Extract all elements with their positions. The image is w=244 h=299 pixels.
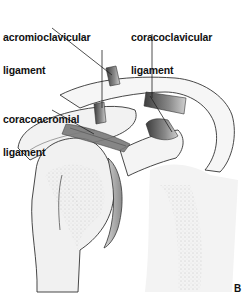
label-line-1: coracoclavicular <box>131 32 212 43</box>
shoulder-ligament-diagram: acromioclavicular ligament coracoclavicu… <box>0 0 244 299</box>
label-line-2: ligament <box>3 65 91 76</box>
panel-letter: B <box>234 283 241 294</box>
label-line-2: ligament <box>131 65 212 76</box>
label-acromioclavicular-ligament: acromioclavicular ligament <box>3 10 91 98</box>
label-line-2: ligament <box>3 147 79 158</box>
label-coracoclavicular-ligament: coracoclavicular ligament <box>131 10 212 98</box>
label-line-1: coracoacromial <box>3 114 79 125</box>
scapula <box>145 165 238 292</box>
label-line-1: acromioclavicular <box>3 32 91 43</box>
label-coracoacromial-ligament: coracoacromial ligament <box>3 92 79 180</box>
